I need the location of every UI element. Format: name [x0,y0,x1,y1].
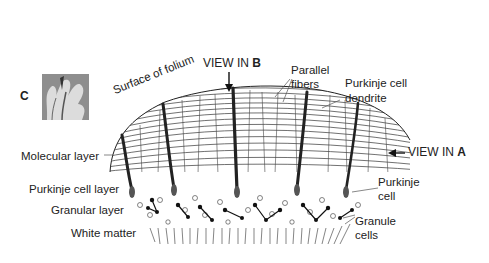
white-matter-label: White matter [71,227,136,240]
purkinje-dendrite-label-line1: Purkinje cell [345,77,407,90]
cerebellar-cortex-drawing [0,0,489,263]
purkinje-dendrite-label-line2: dendrite [345,92,387,105]
granular-layer-label: Granular layer [51,204,124,217]
purkinje-cell-label-line2: cell [378,190,395,203]
parallel-fibers-label-line2: fibers [291,78,319,91]
parallel-fibers-label-line1: Parallel [291,64,329,77]
molecular-layer-label: Molecular layer [21,150,99,163]
view-in-b-label: VIEW IN B [203,57,261,70]
granule-cells-label-line1: Granule [355,215,396,228]
granule-cells-label-line2: cells [355,229,378,242]
purkinje-cell-label-line1: Purkinje [378,176,420,189]
purkinje-cell-layer-label: Purkinje cell layer [29,183,119,196]
view-in-a-label: VIEW IN A [408,146,466,159]
